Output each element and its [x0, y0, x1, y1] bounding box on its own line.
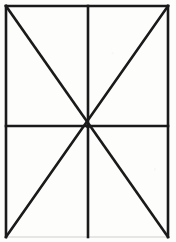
- figure-canvas: [0, 0, 176, 242]
- center-intersection-point: [86, 124, 90, 128]
- line-diagram: [0, 0, 176, 242]
